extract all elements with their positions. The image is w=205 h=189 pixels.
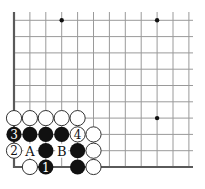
star-point <box>60 18 64 22</box>
white-stone <box>86 127 101 142</box>
black-stone-3: 3 <box>6 127 21 142</box>
white-stone <box>22 111 37 126</box>
stone-icon <box>22 127 37 142</box>
black-stone <box>22 127 37 142</box>
white-stone <box>6 111 21 126</box>
stone-icon <box>54 127 69 142</box>
white-stone <box>22 159 37 174</box>
go-board-diagram: 3421 AB <box>0 0 205 189</box>
stone-icon <box>70 159 85 174</box>
stone-icon <box>22 111 37 126</box>
board-edges <box>13 12 193 168</box>
stone-icon <box>86 127 101 142</box>
black-stone <box>70 159 85 174</box>
stone-icon <box>86 159 101 174</box>
move-number: 2 <box>10 144 18 158</box>
stone-icon <box>38 143 53 158</box>
white-stone <box>86 159 101 174</box>
white-stone <box>70 111 85 126</box>
move-number: 3 <box>10 128 18 142</box>
black-stone <box>70 143 85 158</box>
point-label-b: B <box>57 144 67 159</box>
star-point <box>155 116 159 120</box>
stone-icon <box>22 159 37 174</box>
white-stone <box>38 111 53 126</box>
star-point <box>155 18 159 22</box>
white-stone <box>54 111 69 126</box>
stone-icon <box>70 111 85 126</box>
white-stone-4: 4 <box>70 127 85 142</box>
move-number: 1 <box>42 161 50 175</box>
stone-icon <box>38 111 53 126</box>
black-stone <box>38 143 53 158</box>
stone-icon <box>54 111 69 126</box>
black-stone <box>38 127 53 142</box>
move-number: 4 <box>74 128 82 142</box>
stone-icon <box>86 143 101 158</box>
black-stone <box>54 127 69 142</box>
point-label-a: A <box>24 144 35 159</box>
stone-icon <box>70 143 85 158</box>
stones: 3421 <box>6 111 101 175</box>
black-stone-1: 1 <box>38 159 53 174</box>
white-stone <box>86 143 101 158</box>
board-grid <box>14 12 193 167</box>
stone-icon <box>38 127 53 142</box>
stone-icon <box>6 111 21 126</box>
white-stone-2: 2 <box>6 143 21 158</box>
